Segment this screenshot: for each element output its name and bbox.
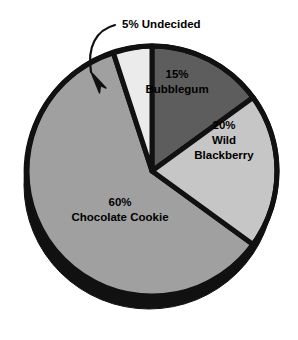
- pie-chart-svg: 5% Undecided 15% Bubblegum 20% Wild Blac…: [0, 0, 298, 340]
- chocolate-cookie-label-line2: Chocolate Cookie: [71, 211, 168, 223]
- pie-chart-figure: 5% Undecided 15% Bubblegum 20% Wild Blac…: [0, 0, 298, 340]
- bubblegum-label-line1: 15%: [165, 68, 188, 80]
- wild-blackberry-label-line2: Wild: [212, 134, 236, 146]
- wild-blackberry-label-line1: 20%: [212, 119, 235, 131]
- wild-blackberry-label-line3: Blackberry: [194, 149, 254, 161]
- bubblegum-label-line2: Bubblegum: [145, 83, 208, 95]
- chocolate-cookie-label-line1: 60%: [108, 196, 131, 208]
- undecided-callout-label: 5% Undecided: [122, 18, 201, 30]
